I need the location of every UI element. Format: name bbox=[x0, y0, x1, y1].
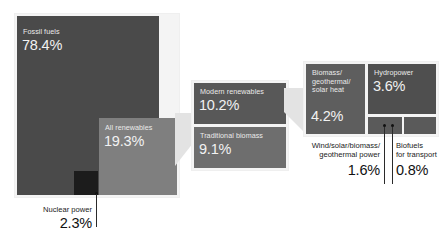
callout-wind-value: 1.6% bbox=[295, 163, 380, 178]
block-traditional-biomass-label: Traditional biomass bbox=[200, 132, 263, 141]
block-biomass-geothermal-solar-heat-label: Biomass/ geothermal/ solar heat bbox=[312, 69, 351, 95]
block-modern-renewables-label: Modern renewables bbox=[200, 88, 264, 97]
wind-leader-line bbox=[384, 127, 385, 184]
biofuels-leader-line bbox=[392, 127, 393, 184]
callout-biofuels-value: 0.8% bbox=[396, 163, 443, 178]
block-all-renewables[interactable]: All renewables 19.3% bbox=[99, 118, 177, 195]
block-hydropower-label: Hydropower bbox=[374, 69, 413, 78]
callout-wind-label: Wind/solar/biomass/ geothermal power bbox=[295, 141, 380, 159]
block-hydropower[interactable]: Hydropower 3.6% bbox=[368, 64, 436, 114]
callout-biofuels-label: Biofuels for transport bbox=[396, 141, 443, 159]
block-fossil-fuels-label: Fossil fuels bbox=[23, 28, 60, 37]
block-biomass-geothermal-solar-heat[interactable]: Biomass/ geothermal/ solar heat 4.2% bbox=[306, 64, 365, 134]
block-all-renewables-value: 19.3% bbox=[104, 134, 144, 149]
block-biofuels-for-transport[interactable] bbox=[404, 117, 436, 134]
block-biomass-geothermal-solar-heat-value: 4.2% bbox=[311, 109, 343, 124]
block-traditional-biomass-value: 9.1% bbox=[199, 142, 231, 157]
block-traditional-biomass[interactable]: Traditional biomass 9.1% bbox=[194, 127, 286, 168]
nuclear-leader-line bbox=[96, 194, 97, 227]
block-hydropower-value: 3.6% bbox=[373, 79, 405, 94]
block-modern-renewables-value: 10.2% bbox=[199, 98, 239, 113]
block-all-renewables-label: All renewables bbox=[105, 124, 152, 133]
block-modern-renewables[interactable]: Modern renewables 10.2% bbox=[194, 83, 286, 124]
block-fossil-fuels-value: 78.4% bbox=[22, 38, 62, 53]
callout-nuclear-power-value: 2.3% bbox=[16, 216, 92, 231]
block-nuclear-power[interactable] bbox=[74, 171, 98, 195]
treemap-figure: Fossil fuels 78.4% All renewables 19.3% … bbox=[0, 0, 443, 249]
callout-nuclear-power-label: Nuclear power bbox=[16, 205, 92, 214]
